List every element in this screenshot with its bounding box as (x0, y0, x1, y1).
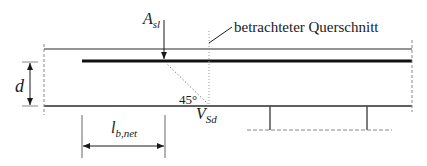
asl-label: Asl (142, 10, 160, 30)
d-label: d (15, 76, 25, 96)
vsd-label: VSd (196, 105, 217, 125)
section-label: betrachteter Querschnitt (234, 19, 379, 35)
anchorage-length-diagram: betrachteter Querschnitt Asl 45° VSd d l… (0, 0, 427, 166)
section-leader-line (209, 27, 232, 43)
lb-net-label: lb,net (111, 119, 138, 139)
angle-label: 45° (179, 92, 197, 107)
